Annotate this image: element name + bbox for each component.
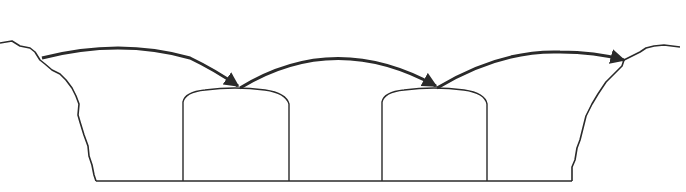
- pier-1: [183, 88, 289, 181]
- arrow-span-3: [437, 52, 624, 88]
- right-valley-wall: [572, 45, 680, 181]
- arrow-span-1: [42, 48, 238, 86]
- diagram-svg: [0, 0, 686, 192]
- left-valley-wall: [0, 41, 96, 181]
- pier-2: [382, 88, 487, 181]
- bridge-diagram: [0, 0, 686, 192]
- arrow-span-2: [240, 58, 436, 88]
